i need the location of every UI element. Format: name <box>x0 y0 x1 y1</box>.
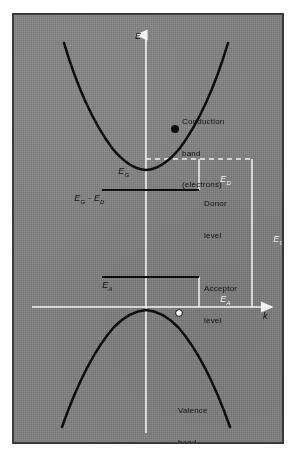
donor-level-label: Donor level <box>204 178 227 262</box>
donor-binding-subscript: D <box>226 179 231 185</box>
gap-at-minimum-subscript: G <box>124 171 129 177</box>
conduction-band-label-line2: band <box>182 149 224 160</box>
energy-axis-label: E <box>135 31 141 42</box>
conduction-band-label-line1: Conduction <box>182 117 224 128</box>
donor-level-label-line2: level <box>204 231 227 242</box>
valence-band-label-line1: Valence <box>178 406 208 417</box>
donor-level-label-line1: Donor <box>204 199 227 210</box>
band-diagram-plot <box>14 15 282 442</box>
valence-band-label-line2: band <box>178 438 208 445</box>
k-axis-label: k <box>263 311 268 322</box>
acceptor-binding-subscript: A <box>226 299 230 305</box>
figure-frame: E k Conduction band (electrons) Valence … <box>12 13 284 444</box>
acceptor-binding-label: EA <box>204 283 231 318</box>
acceptor-level-energy-label: EA <box>86 269 113 304</box>
valence-band-label: Valence band (holes) <box>178 385 208 444</box>
hole-marker <box>176 310 183 317</box>
electron-marker <box>171 125 179 133</box>
total-gap-label: EG <box>257 223 284 258</box>
acceptor-energy-subscript: A <box>108 285 112 291</box>
donor-level-energy-label: EG - ED <box>58 182 105 217</box>
donor-energy-subscript-2: D <box>100 198 105 204</box>
donor-energy-operator: - E <box>85 193 100 203</box>
total-gap-subscript: G <box>279 239 284 245</box>
band-structure-figure: E k Conduction band (electrons) Valence … <box>0 0 296 460</box>
gap-at-minimum-label: EG <box>102 155 129 190</box>
